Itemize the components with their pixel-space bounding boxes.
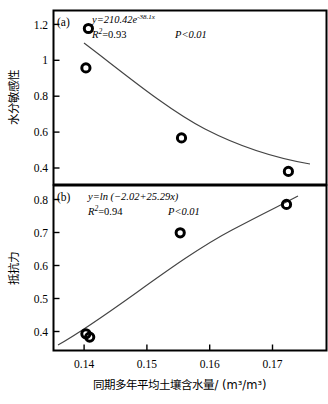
- panel-a-ytick-1: 1: [42, 54, 48, 66]
- xtick-0.17: 0.17: [262, 358, 282, 370]
- svg-text:R2=0.94: R2=0.94: [87, 204, 123, 217]
- panel-b-ytick-0.5: 0.5: [34, 293, 49, 305]
- panel-b-ytick-0.4: 0.4: [34, 326, 49, 338]
- panel-a-eq-exponent: -38.1x: [137, 13, 156, 21]
- figure-container: 1.2 1 0.8 0.6 0.4 水分敏感性 (a) y=210.42e-38…: [0, 0, 328, 404]
- panel-b-tag: (b): [57, 191, 71, 204]
- panel-a-ytick-1.2: 1.2: [34, 19, 49, 31]
- panel-a-ytick-0.4: 0.4: [34, 162, 49, 174]
- x-axis-title: 同期多年平均土壤含水量/ (m³/m³): [93, 378, 266, 392]
- chart-svg: 1.2 1 0.8 0.6 0.4 水分敏感性 (a) y=210.42e-38…: [0, 0, 328, 404]
- panel-a-ytick-0.8: 0.8: [34, 90, 49, 102]
- panel-b-p-value: P<0.01: [167, 206, 200, 217]
- panel-a-y-axis-title: 水分敏感性: [7, 70, 21, 125]
- panel-a-p-value: P<0.01: [174, 29, 207, 40]
- panel-b-ytick-0.7: 0.7: [34, 227, 49, 239]
- panel-b-ytick-0.6: 0.6: [34, 260, 49, 272]
- panel-b-r2-value: =0.94: [98, 206, 123, 217]
- xtick-0.14: 0.14: [74, 358, 94, 370]
- xtick-0.16: 0.16: [200, 358, 220, 370]
- xtick-0.15: 0.15: [137, 358, 157, 370]
- panel-a-eq-main: y=210.42e: [91, 14, 138, 25]
- figure-background: [0, 0, 328, 404]
- panel-b-eq-main: y=ln (−2.02+25.29x): [87, 191, 179, 203]
- panel-a-ytick-0.6: 0.6: [34, 126, 49, 138]
- panel-b-ytick-0.8: 0.8: [34, 194, 49, 206]
- panel-b-y-axis-title: 抵抗力: [7, 252, 21, 285]
- panel-a-tag: (a): [57, 16, 70, 29]
- svg-text:R2=0.93: R2=0.93: [91, 27, 126, 40]
- panel-a-r2-value: =0.93: [102, 29, 126, 40]
